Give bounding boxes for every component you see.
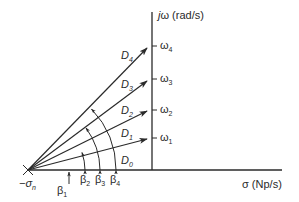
vector-d4	[28, 48, 147, 170]
omega-4-label: ω4	[160, 39, 173, 53]
d0-label: D0	[121, 154, 133, 168]
omega-2-label: ω2	[160, 103, 173, 117]
arc-beta-3	[86, 128, 100, 170]
d3-label: D3	[121, 78, 133, 92]
d1-label: D1	[121, 127, 133, 141]
beta-3-label: β3	[95, 173, 105, 187]
beta-4-label: β4	[110, 173, 120, 187]
d2-label: D2	[121, 104, 133, 118]
d4-label: D4	[121, 49, 133, 63]
j-omega-axis-label: jω (rad/s)	[156, 9, 204, 21]
s-plane-diagram: jω (rad/s) σ (Np/s) ω4 ω3 ω2 ω1 D4 D3 D2…	[0, 0, 299, 202]
omega-3-label: ω3	[160, 72, 173, 86]
beta-2-label: β2	[80, 173, 90, 187]
sigma-axis-label: σ (Np/s)	[242, 178, 282, 190]
omega-1-label: ω1	[160, 131, 173, 145]
beta-1-label: β1	[57, 184, 67, 198]
arc-beta-4	[92, 109, 117, 170]
minus-sigma-n-label: −σn	[19, 177, 36, 191]
axes	[28, 12, 282, 170]
vectors	[28, 48, 147, 170]
vector-d3	[28, 81, 147, 170]
